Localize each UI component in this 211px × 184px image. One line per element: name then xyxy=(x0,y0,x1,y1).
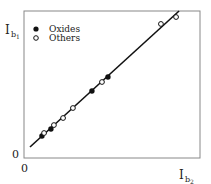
point-oxides xyxy=(105,74,110,79)
point-others xyxy=(71,106,76,111)
legend-oxides-marker xyxy=(33,26,38,31)
scatter-chart: I b 1 I b 2 0 0 Oxides Others xyxy=(0,0,211,184)
point-others xyxy=(159,22,164,27)
legend-others-marker xyxy=(34,36,39,41)
x-zero-tick: 0 xyxy=(21,162,28,175)
x-axis-label: I b 2 xyxy=(179,168,194,184)
svg-text:2: 2 xyxy=(190,178,194,184)
svg-text:I: I xyxy=(5,23,10,37)
point-others xyxy=(61,116,66,121)
point-others xyxy=(52,123,57,128)
legend-others-label: Others xyxy=(49,33,80,43)
y-axis-label: I b 1 xyxy=(5,23,20,40)
point-others xyxy=(100,80,105,85)
legend: Oxides Others xyxy=(33,24,80,43)
point-others xyxy=(174,15,179,20)
y-zero-tick: 0 xyxy=(12,148,19,161)
svg-text:1: 1 xyxy=(16,33,20,40)
svg-text:I: I xyxy=(179,168,184,182)
point-oxides xyxy=(89,88,94,93)
point-others xyxy=(42,131,47,136)
